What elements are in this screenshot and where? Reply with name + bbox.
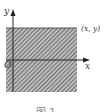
y-axis-label: y — [3, 6, 10, 16]
origin-label: O — [4, 60, 12, 70]
y-axis-arrow-icon — [11, 9, 16, 16]
figure-caption: 图 1 — [36, 107, 56, 112]
coordinate-diagram: y x O (x, y) 图 1 — [0, 0, 104, 112]
x-axis-label: x — [85, 61, 90, 71]
corner-point-label: (x, y) — [81, 24, 100, 33]
